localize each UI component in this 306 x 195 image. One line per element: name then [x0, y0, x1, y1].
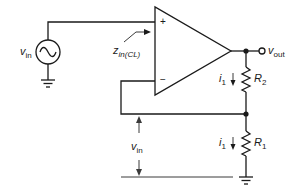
- ac-source-icon: [36, 40, 60, 64]
- schematic: [0, 0, 306, 195]
- r1-label: R1: [254, 137, 266, 151]
- noninverting-sign: +: [160, 17, 166, 27]
- input-wire: [48, 22, 155, 40]
- inverting-sign: −: [160, 75, 166, 85]
- resistor-r2-icon: [242, 67, 250, 92]
- feedback-wire: [121, 81, 246, 114]
- output-terminal: [259, 48, 265, 54]
- resistor-r1-icon: [242, 131, 250, 156]
- i1-top-label: i1: [219, 73, 226, 87]
- zin-label: zin(CL): [113, 45, 140, 59]
- r2-label: R2: [254, 73, 266, 87]
- ground-icon: [41, 80, 55, 87]
- current-arrow-top-icon: [231, 73, 236, 86]
- ground-icon-r1: [239, 177, 253, 184]
- vin-feedback-label: vin: [131, 141, 143, 155]
- source-label: vin: [20, 46, 32, 60]
- current-arrow-bottom-icon: [231, 137, 236, 150]
- vout-label: vout: [268, 45, 285, 59]
- zin-arrow-icon: [124, 29, 151, 42]
- i1-bottom-label: i1: [219, 137, 226, 151]
